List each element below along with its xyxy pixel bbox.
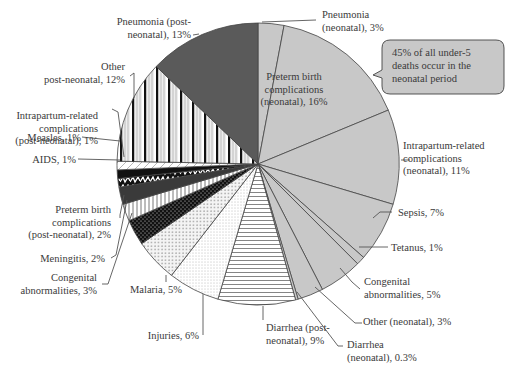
label-preterm-neonatal-line: (neonatal), 16% — [260, 96, 327, 108]
label-diarrhea-post-neonatal-line: Diarrhea (post- — [266, 322, 330, 334]
label-aids: AIDS, 1% — [32, 154, 76, 165]
label-diarrhea-neonatal: Diarrhea(neonatal), 0.3% — [347, 339, 417, 364]
label-meningitis: Meningitis, 2% — [40, 253, 105, 264]
label-diarrhea-post-neonatal: Diarrhea (post-neonatal), 9% — [266, 322, 330, 347]
label-intrapartum-neonatal-line: complications — [403, 153, 462, 164]
leader-line — [262, 20, 316, 22]
label-other-neonatal: Other (neonatal), 3% — [363, 316, 452, 328]
label-intrapartum-post-neonatal-line: Intrapartum-related — [16, 110, 98, 121]
label-intrapartum-neonatal: Intrapartum-relatedcomplications(neonata… — [403, 140, 485, 177]
label-pneumonia-post-neonatal-line: neonatal), 13% — [127, 29, 191, 41]
label-preterm-post-neonatal: Preterm birthcomplications(post-neonatal… — [28, 204, 112, 241]
label-preterm-post-neonatal-line: (post-neonatal), 2% — [28, 229, 111, 241]
label-malaria: Malaria, 5% — [130, 284, 182, 295]
label-intrapartum-neonatal-line: (neonatal), 11% — [403, 165, 470, 177]
label-tetanus-line: Tetanus, 1% — [391, 242, 443, 253]
label-diarrhea-post-neonatal-line: neonatal), 9% — [266, 335, 325, 347]
label-congenital-post-neonatal-line: abnormalities, 3% — [21, 285, 98, 296]
label-congenital-post-neonatal: Congenitalabnormalities, 3% — [21, 272, 98, 296]
leader-line — [130, 73, 134, 98]
label-diarrhea-neonatal-line: (neonatal), 0.3% — [347, 352, 417, 364]
label-other-post-neonatal: Otherpost-neonatal, 12% — [44, 61, 126, 85]
label-malaria-line: Malaria, 5% — [130, 284, 182, 295]
pie-slices — [117, 23, 399, 305]
label-congenital-neonatal: Congenitalabnormalities, 5% — [364, 276, 441, 300]
pie-chart: Pneumonia(neonatal), 3%Preterm birthcomp… — [0, 0, 515, 375]
label-preterm-neonatal-line: Preterm birth — [266, 71, 322, 82]
label-tetanus: Tetanus, 1% — [391, 242, 443, 253]
label-preterm-post-neonatal-line: complications — [52, 217, 111, 228]
callout-line-3: neonatal period — [392, 73, 458, 84]
label-intrapartum-post-neonatal-line: complications — [39, 123, 98, 134]
callout-line-2: deaths occur in the — [392, 60, 471, 71]
label-other-neonatal-line: Other (neonatal), 3% — [363, 316, 452, 328]
label-injuries: Injuries, 6% — [148, 330, 200, 341]
callout-line-1: 45% of all under-5 — [392, 47, 471, 58]
label-diarrhea-neonatal-line: Diarrhea — [347, 339, 384, 350]
label-injuries-line: Injuries, 6% — [148, 330, 200, 341]
label-meningitis-line: Meningitis, 2% — [40, 253, 105, 264]
label-congenital-neonatal-line: abnormalities, 5% — [364, 289, 441, 300]
callout: 45% of all under-5 deaths occur in the n… — [373, 40, 504, 94]
label-pneumonia-post-neonatal-line: Pneumonia (post- — [117, 16, 192, 28]
label-pneumonia-post-neonatal: Pneumonia (post-neonatal), 13% — [117, 16, 192, 41]
label-preterm-neonatal: Preterm birthcomplications(neonatal), 16… — [260, 71, 327, 108]
label-pneumonia-neonatal-line: (neonatal), 3% — [322, 22, 384, 34]
label-preterm-neonatal-line: complications — [265, 84, 324, 95]
label-other-post-neonatal-line: Other — [101, 61, 125, 72]
leader-line — [78, 159, 120, 160]
label-aids-line: AIDS, 1% — [32, 154, 76, 165]
label-congenital-post-neonatal-line: Congenital — [51, 272, 97, 283]
label-sepsis: Sepsis, 7% — [398, 207, 444, 218]
label-other-post-neonatal-line: post-neonatal, 12% — [44, 74, 125, 85]
label-intrapartum-post-neonatal: Intrapartum-relatedcomplications(post-ne… — [15, 110, 99, 147]
label-sepsis-line: Sepsis, 7% — [398, 207, 444, 218]
label-pneumonia-neonatal-line: Pneumonia — [322, 9, 370, 20]
label-preterm-post-neonatal-line: Preterm birth — [55, 204, 111, 215]
label-intrapartum-neonatal-line: Intrapartum-related — [403, 140, 485, 151]
leader-line — [315, 287, 362, 323]
label-pneumonia-neonatal: Pneumonia(neonatal), 3% — [322, 9, 384, 34]
label-intrapartum-post-neonatal-line: (post-neonatal), 1% — [15, 135, 98, 147]
label-congenital-neonatal-line: Congenital — [364, 276, 410, 287]
leader-line — [193, 34, 199, 35]
